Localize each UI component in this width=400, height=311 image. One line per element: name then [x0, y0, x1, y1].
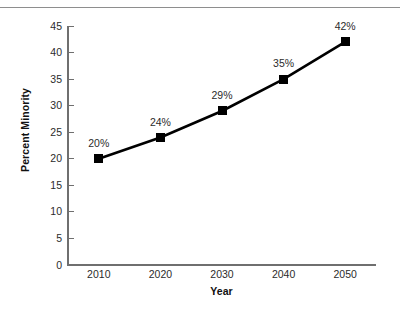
- data-point-value-label: 35%: [254, 58, 314, 69]
- data-point-value-label: 24%: [130, 117, 190, 128]
- line-chart-figure: 051015202530354045 20102020203020402050 …: [0, 0, 400, 311]
- data-point-marker: [279, 75, 288, 84]
- data-point-marker: [218, 106, 227, 115]
- data-point-marker: [94, 154, 103, 163]
- series-line: [0, 0, 400, 311]
- data-point-value-label: 42%: [315, 21, 375, 32]
- data-point-marker: [156, 133, 165, 142]
- data-point-value-label: 20%: [69, 138, 129, 149]
- data-point-marker: [341, 37, 350, 46]
- data-point-value-label: 29%: [192, 90, 252, 101]
